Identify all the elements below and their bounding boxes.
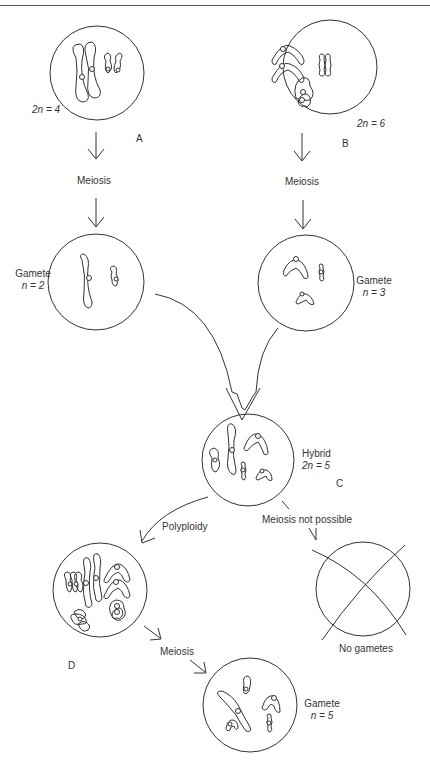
gamete-a-ploidy: n = 2 [15, 280, 51, 292]
gamete-d-ploidy: n = 5 [304, 710, 340, 722]
converging-arrow [155, 294, 278, 420]
gamete-d-title: Gamete [304, 698, 340, 710]
arrow-meiosis-a-down [88, 198, 104, 227]
gamete-b-ploidy: n = 3 [356, 287, 392, 299]
cell-d-letter: D [68, 660, 75, 672]
meiosis-not-possible-label: Meiosis not possible [262, 514, 352, 526]
gamete-cell-a [48, 234, 144, 330]
arrow-a-down [88, 132, 104, 159]
gamete-b-title: Gamete [356, 275, 392, 287]
hybrid-cell-c [202, 414, 294, 506]
gamete-d-label: Gamete n = 5 [304, 698, 340, 722]
cell-b [272, 20, 377, 114]
hybrid-ploidy: 2n = 5 [302, 460, 331, 472]
cell-a-letter: A [136, 133, 143, 145]
gamete-cell-d [203, 658, 297, 752]
gamete-cell-b [258, 235, 354, 331]
meiosis-b-label: Meiosis [285, 176, 319, 188]
arrow-b-down [294, 133, 310, 161]
cell-a [50, 26, 144, 120]
hybrid-label: Hybrid 2n = 5 [302, 448, 331, 472]
meiosis-a-label: Meiosis [77, 175, 111, 187]
arrow-meiosis-b-down [295, 200, 311, 229]
no-gametes-label: No gametes [339, 643, 393, 655]
gamete-a-title: Gamete [15, 268, 51, 280]
sterile-cell [312, 542, 410, 640]
meiosis-d-label: Meiosis [160, 646, 194, 658]
hybrid-title: Hybrid [302, 448, 331, 460]
polyploid-cell-d [53, 543, 147, 637]
cell-c-letter: C [336, 478, 343, 490]
gamete-b-label: Gamete n = 3 [356, 275, 392, 299]
gamete-a-label: Gamete n = 2 [15, 268, 51, 292]
cell-b-letter: B [342, 138, 349, 150]
polyploidy-arrow [140, 497, 208, 543]
meiosis-d-arrow-1 [144, 626, 161, 640]
cell-a-ploidy: 2n = 4 [32, 104, 60, 116]
cell-b-ploidy: 2n = 6 [357, 118, 385, 130]
meiosis-d-arrow-2 [190, 660, 206, 673]
polyploidy-label: Polyploidy [162, 521, 208, 533]
